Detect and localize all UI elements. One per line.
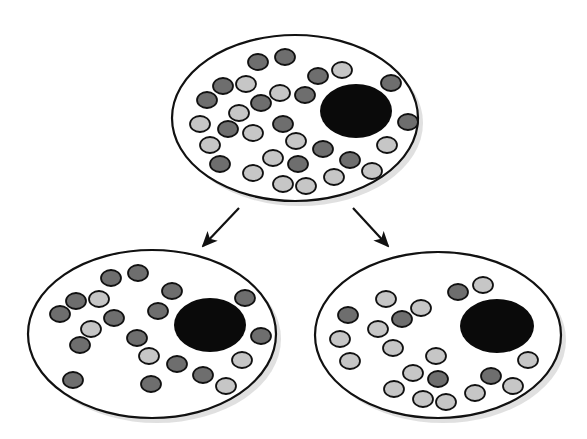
light-granule — [324, 169, 344, 185]
light-granule — [362, 163, 382, 179]
light-granule — [190, 116, 210, 132]
dark-granule — [481, 368, 501, 384]
cell-division-diagram — [0, 0, 587, 439]
light-granule — [376, 291, 396, 307]
light-granule — [384, 381, 404, 397]
arrows-layer — [203, 208, 388, 246]
dark-granule — [340, 152, 360, 168]
light-granule — [426, 348, 446, 364]
dark-granule — [104, 310, 124, 326]
light-granule — [232, 352, 252, 368]
light-granule — [403, 365, 423, 381]
arrow-right-icon — [353, 208, 388, 246]
dark-granule — [398, 114, 418, 130]
dark-granule — [251, 95, 271, 111]
light-granule — [89, 291, 109, 307]
dark-granule — [288, 156, 308, 172]
light-granule — [139, 348, 159, 364]
light-granule — [216, 378, 236, 394]
dark-granule — [63, 372, 83, 388]
dark-granule — [273, 116, 293, 132]
arrow-left-icon — [203, 208, 239, 246]
dark-granule — [197, 92, 217, 108]
dark-granule — [248, 54, 268, 70]
light-granule — [243, 165, 263, 181]
dark-granule — [235, 290, 255, 306]
light-granule — [273, 176, 293, 192]
dark-granule — [313, 141, 333, 157]
light-granule — [413, 391, 433, 407]
dark-granule — [148, 303, 168, 319]
cell-daughter-dark — [28, 250, 281, 423]
dark-granule — [308, 68, 328, 84]
dark-granule — [128, 265, 148, 281]
dark-granule — [101, 270, 121, 286]
dark-granule — [392, 311, 412, 327]
light-granule — [473, 277, 493, 293]
cell-parent — [172, 35, 423, 206]
nucleus — [320, 84, 392, 138]
dark-granule — [381, 75, 401, 91]
light-granule — [330, 331, 350, 347]
light-granule — [411, 300, 431, 316]
nucleus — [174, 298, 246, 352]
dark-granule — [251, 328, 271, 344]
dark-granule — [70, 337, 90, 353]
light-granule — [332, 62, 352, 78]
dark-granule — [338, 307, 358, 323]
dark-granule — [141, 376, 161, 392]
light-granule — [200, 137, 220, 153]
light-granule — [270, 85, 290, 101]
dark-granule — [448, 284, 468, 300]
dark-granule — [193, 367, 213, 383]
light-granule — [340, 353, 360, 369]
light-granule — [383, 340, 403, 356]
light-granule — [229, 105, 249, 121]
dark-granule — [275, 49, 295, 65]
light-granule — [465, 385, 485, 401]
nucleus — [460, 299, 534, 353]
dark-granule — [218, 121, 238, 137]
dark-granule — [50, 306, 70, 322]
diagram-canvas — [0, 0, 587, 439]
cells-layer — [28, 35, 566, 423]
dark-granule — [127, 330, 147, 346]
light-granule — [296, 178, 316, 194]
light-granule — [368, 321, 388, 337]
light-granule — [286, 133, 306, 149]
dark-granule — [162, 283, 182, 299]
dark-granule — [210, 156, 230, 172]
light-granule — [436, 394, 456, 410]
light-granule — [518, 352, 538, 368]
light-granule — [503, 378, 523, 394]
light-granule — [263, 150, 283, 166]
light-granule — [243, 125, 263, 141]
light-granule — [377, 137, 397, 153]
dark-granule — [167, 356, 187, 372]
dark-granule — [428, 371, 448, 387]
dark-granule — [295, 87, 315, 103]
light-granule — [236, 76, 256, 92]
dark-granule — [213, 78, 233, 94]
cell-daughter-light — [315, 252, 566, 423]
light-granule — [81, 321, 101, 337]
dark-granule — [66, 293, 86, 309]
